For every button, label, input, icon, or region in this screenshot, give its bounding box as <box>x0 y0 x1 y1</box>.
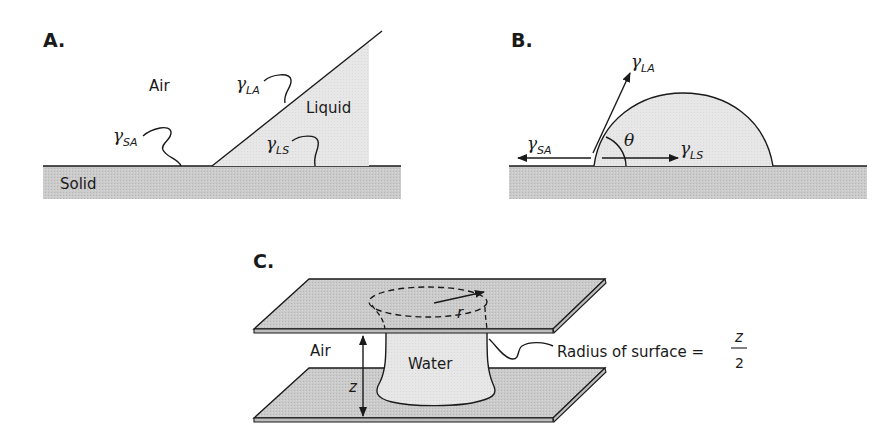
panel-a: A. Solid Liquid Air γ LA γ SA γ LS <box>43 29 401 199</box>
gamma-la-label: γ LA <box>631 51 655 75</box>
gamma-sa-label: γ SA <box>113 125 138 149</box>
panel-b-label: B. <box>511 29 533 51</box>
water-label: Water <box>408 355 453 373</box>
gamma-la-leader <box>264 75 291 103</box>
gamma-sa-leader <box>143 128 181 166</box>
liquid-label: Liquid <box>306 99 351 117</box>
svg-text:LS: LS <box>690 149 703 162</box>
gamma-la-label: γ LA <box>236 73 260 97</box>
solid-slab <box>509 166 867 199</box>
panel-c: C. Water r Air z Radius of surface = <box>253 250 747 422</box>
r-label: r <box>457 304 464 322</box>
svg-text:LA: LA <box>641 62 655 75</box>
svg-text:SA: SA <box>537 144 552 157</box>
z-over-2-fraction: z 2 <box>731 328 747 371</box>
panel-c-label: C. <box>253 250 274 272</box>
svg-text:2: 2 <box>735 355 744 371</box>
svg-text:SA: SA <box>123 136 138 149</box>
svg-text:z: z <box>734 328 744 346</box>
solid-slab <box>43 166 401 199</box>
panel-a-label: A. <box>43 29 65 51</box>
surface-tension-diagram: A. Solid Liquid Air γ LA γ SA γ LS B. <box>0 0 896 438</box>
panel-b: B. θ γ LA γ SA γ LS <box>509 29 867 199</box>
air-label: Air <box>310 342 331 360</box>
theta-label: θ <box>624 130 634 150</box>
radius-of-surface-label: Radius of surface = <box>557 343 704 361</box>
solid-label: Solid <box>60 175 97 193</box>
gamma-sa-label: γ SA <box>527 133 552 157</box>
svg-text:LS: LS <box>276 144 289 157</box>
radius-leader <box>489 339 553 359</box>
air-label: Air <box>149 77 170 95</box>
svg-text:LA: LA <box>246 84 260 97</box>
z-label: z <box>348 378 358 396</box>
